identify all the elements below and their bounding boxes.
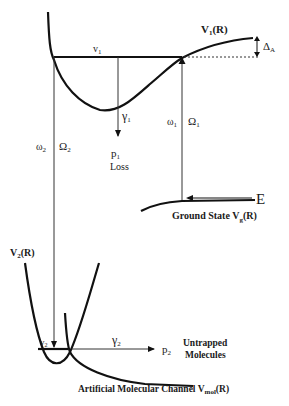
v1-curve-label: V1(R) [201, 23, 228, 37]
gamma1-label: γ1 [121, 109, 131, 124]
p1-label: p1 [111, 147, 121, 161]
potential-energy-diagram: V1(R) ΔA v1 γ1 ω1 Ω1 ω2 Ω2 p1 Loss E Gro… [0, 0, 289, 406]
v1-level-label: v1 [93, 43, 102, 56]
ground-state-label: Ground State Vg(R) [172, 210, 257, 224]
omega2-label: ω2 [36, 141, 47, 154]
v2-curve-label: V2(R) [10, 247, 35, 260]
diagram-svg: V1(R) ΔA v1 γ1 ω1 Ω1 ω2 Ω2 p1 Loss E Gro… [0, 0, 289, 406]
untrapped-label-line1: Untrapped [183, 338, 228, 348]
delta-a-label: ΔA [263, 40, 275, 54]
Omega2-label: Ω2 [59, 140, 71, 154]
Omega1-label: Ω1 [188, 115, 200, 129]
energy-label: E [256, 191, 265, 207]
v2-level-label: v2 [40, 337, 48, 348]
omega1-label: ω1 [167, 116, 178, 129]
p2-label: p2 [162, 343, 172, 357]
channel-label: Artificial Molecular Channel Vmol(R) [78, 384, 229, 396]
gamma2-label: γ2 [111, 333, 121, 348]
untrapped-label-line2: Molecules [185, 350, 226, 360]
loss-label: Loss [110, 161, 129, 172]
